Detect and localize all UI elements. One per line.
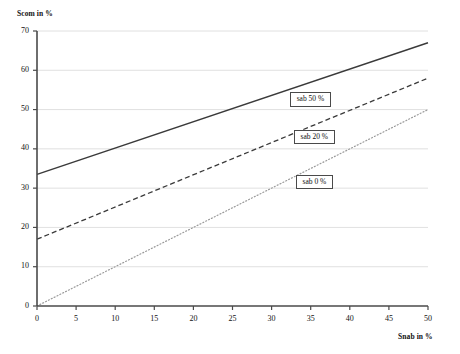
y-tick-label: 40 bbox=[7, 143, 29, 152]
x-tick-label: 35 bbox=[299, 314, 323, 323]
gridlines bbox=[37, 31, 428, 267]
plot-canvas bbox=[0, 0, 460, 354]
x-tick-label: 5 bbox=[64, 314, 88, 323]
y-tick-label: 60 bbox=[7, 65, 29, 74]
y-axis-title: Scom in % bbox=[17, 9, 53, 18]
series-line bbox=[37, 110, 428, 306]
x-tick-label: 45 bbox=[377, 314, 401, 323]
y-tick-label: 30 bbox=[7, 183, 29, 192]
series-label-box: sab 0 % bbox=[296, 175, 334, 190]
x-tick-label: 30 bbox=[260, 314, 284, 323]
x-tick-label: 15 bbox=[142, 314, 166, 323]
y-tick-label: 10 bbox=[7, 261, 29, 270]
series-line bbox=[37, 43, 428, 175]
series-line bbox=[37, 78, 428, 239]
y-tick-label: 20 bbox=[7, 222, 29, 231]
line-chart: Scom in % Snab in % 010203040506070 0510… bbox=[0, 0, 460, 354]
x-tick-label: 40 bbox=[338, 314, 362, 323]
y-tick-label: 70 bbox=[7, 26, 29, 35]
x-axis-title: Snab in % bbox=[398, 332, 433, 341]
series-label-box: sab 50 % bbox=[290, 92, 332, 107]
series-label-box: sab 20 % bbox=[294, 130, 336, 145]
y-tick-label: 50 bbox=[7, 104, 29, 113]
y-tick-label: 0 bbox=[7, 301, 29, 310]
x-tick-label: 25 bbox=[221, 314, 245, 323]
x-tick-label: 10 bbox=[103, 314, 127, 323]
x-tick-label: 20 bbox=[181, 314, 205, 323]
x-tick-label: 50 bbox=[416, 314, 440, 323]
x-tick-label: 0 bbox=[25, 314, 49, 323]
